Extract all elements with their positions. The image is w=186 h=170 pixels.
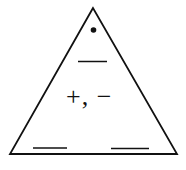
operations-label: +, − bbox=[66, 84, 112, 110]
top-dot-marker bbox=[91, 27, 97, 33]
